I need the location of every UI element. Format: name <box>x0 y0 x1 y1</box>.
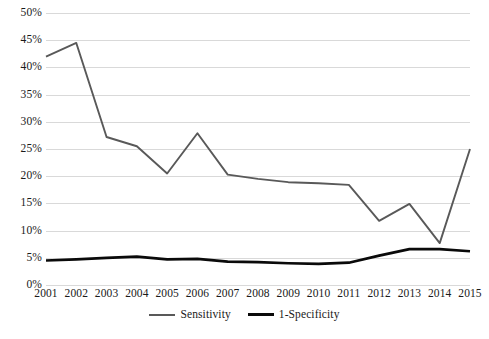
y-axis-tick-label: 10% <box>2 225 42 237</box>
x-axis-tick-label: 2015 <box>458 288 481 300</box>
y-axis-tick-label: 35% <box>2 89 42 101</box>
y-axis-tick-label: 30% <box>2 116 42 128</box>
x-axis-tick-label: 2013 <box>398 288 421 300</box>
legend-entry-1-specificity: 1-Specificity <box>248 309 340 321</box>
series-container <box>46 13 470 285</box>
legend-label-1-specificity: 1-Specificity <box>279 309 340 321</box>
x-axis-tick-label: 2004 <box>125 288 148 300</box>
plot-area <box>46 13 470 285</box>
series-line-1-specificity <box>46 249 470 264</box>
y-axis-tick-label: 5% <box>2 252 42 264</box>
legend-swatch-icon-1-specificity <box>248 313 274 316</box>
y-axis: 0%5%10%15%20%25%30%35%40%45%50% <box>0 13 42 285</box>
y-axis-tick-label: 45% <box>2 34 42 46</box>
gridline <box>46 285 470 286</box>
series-line-sensitivity <box>46 43 470 243</box>
y-axis-tick-label: 50% <box>2 7 42 19</box>
y-axis-tick-label: 20% <box>2 170 42 182</box>
legend-entry-sensitivity: Sensitivity <box>149 309 230 321</box>
y-axis-tick-label: 15% <box>2 198 42 210</box>
x-axis-tick-label: 2012 <box>367 288 390 300</box>
x-axis-tick-label: 2008 <box>246 288 269 300</box>
y-axis-tick-label: 25% <box>2 143 42 155</box>
x-axis: 2001200220032004200520062007200820092010… <box>46 288 470 306</box>
x-axis-tick-label: 2005 <box>155 288 178 300</box>
x-axis-tick-label: 2009 <box>277 288 300 300</box>
legend-swatch-icon-sensitivity <box>149 314 175 316</box>
x-axis-tick-label: 2002 <box>65 288 88 300</box>
x-axis-tick-label: 2011 <box>337 288 360 300</box>
line-chart: 0%5%10%15%20%25%30%35%40%45%50% 20012002… <box>0 0 489 339</box>
x-axis-tick-label: 2001 <box>34 288 57 300</box>
x-axis-tick-label: 2006 <box>186 288 209 300</box>
x-axis-tick-label: 2007 <box>216 288 239 300</box>
y-axis-tick-label: 40% <box>2 62 42 74</box>
legend-label-sensitivity: Sensitivity <box>180 309 230 321</box>
x-axis-tick-label: 2003 <box>95 288 118 300</box>
x-axis-tick-label: 2010 <box>307 288 330 300</box>
chart-legend: Sensitivity 1-Specificity <box>0 309 489 321</box>
x-axis-tick-label: 2014 <box>428 288 451 300</box>
